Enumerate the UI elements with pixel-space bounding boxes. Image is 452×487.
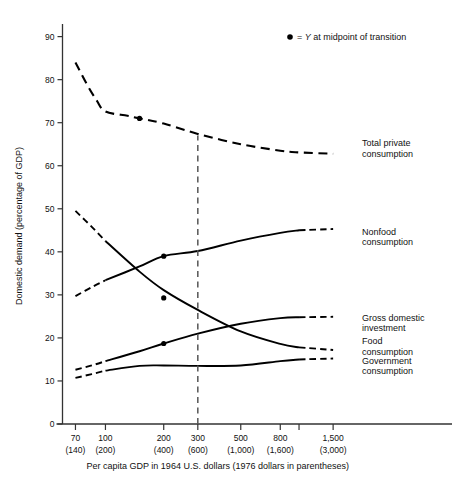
- y-tick-label-20: 20: [45, 333, 55, 343]
- y-tick-label-80: 80: [45, 75, 55, 85]
- series-dash-end-nonfood-consumption: [299, 229, 333, 230]
- curve-label-government-consumption: Government: [362, 356, 412, 366]
- series-dash-end-government-consumption: [299, 359, 333, 360]
- series-line-food-consumption: [105, 241, 299, 347]
- series-line-government-consumption: [105, 359, 299, 370]
- domestic-demand-chart: 010203040506070809070(140)100(200)200(40…: [0, 0, 452, 487]
- legend-text-before: =: [297, 32, 305, 42]
- x-tick-label-1,500: 1,500: [322, 433, 344, 443]
- y-tick-label-40: 40: [45, 247, 55, 257]
- midpoint-marker-nonfood-consumption: [161, 254, 166, 259]
- curve-label-total-private-consumption: Total private: [362, 138, 411, 148]
- x-tick-paren-200: (400): [154, 445, 174, 455]
- x-tick-paren-500: (1,000): [227, 445, 254, 455]
- legend-group: = Y at midpoint of transition: [287, 32, 406, 42]
- x-axis-title: Per capita GDP in 1964 U.S. dollars (197…: [87, 461, 349, 471]
- series-dash-end-food-consumption: [299, 347, 333, 350]
- curve-label-government-consumption: consumption: [362, 366, 413, 376]
- y-tick-label-30: 30: [45, 290, 55, 300]
- midpoint-marker-food-consumption: [161, 295, 166, 300]
- y-tick-label-70: 70: [45, 118, 55, 128]
- series-dash-start-nonfood-consumption: [75, 280, 105, 296]
- series-dash-start-government-consumption: [75, 371, 105, 378]
- curve-label-nonfood-consumption: consumption: [362, 237, 413, 247]
- x-tick-paren-300: (600): [188, 445, 208, 455]
- curve-label-gross-domestic-investment: Gross domestic: [362, 313, 425, 323]
- x-tick-paren-100: (200): [96, 445, 116, 455]
- axis-titles-group: Domestic demand (percentage of GDP)Per c…: [14, 147, 349, 471]
- x-tick-paren-70: (140): [66, 445, 86, 455]
- y-tick-label-10: 10: [45, 376, 55, 386]
- midpoint-marker-total-private-consumption: [137, 116, 142, 121]
- series-group: [75, 62, 333, 378]
- x-tick-label-70: 70: [71, 433, 81, 443]
- y-tick-label-90: 90: [45, 32, 55, 42]
- series-line-nonfood-consumption: [105, 230, 299, 280]
- x-tick-label-100: 100: [98, 433, 112, 443]
- legend-text-after: at midpoint of transition: [311, 32, 407, 42]
- x-tick-label-200: 200: [157, 433, 171, 443]
- legend-dot-icon: [287, 34, 293, 40]
- midpoint-marker-gross-domestic-investment: [161, 341, 166, 346]
- x-tick-paren-800: (1,600): [267, 445, 294, 455]
- y-axis-title: Domestic demand (percentage of GDP): [14, 147, 24, 305]
- y-tick-label-60: 60: [45, 161, 55, 171]
- legend-label: = Y at midpoint of transition: [297, 32, 406, 42]
- series-line-total-private-consumption: [75, 62, 333, 153]
- y-tick-label-0: 0: [50, 419, 55, 429]
- series-line-gross-domestic-investment: [105, 317, 299, 361]
- y-tick-label-50: 50: [45, 204, 55, 214]
- curve-label-total-private-consumption: consumption: [362, 149, 413, 159]
- x-tick-label-300: 300: [191, 433, 205, 443]
- curve-label-nonfood-consumption: Nonfood: [362, 227, 396, 237]
- marker-group: [137, 116, 166, 346]
- series-dash-start-gross-domestic-investment: [75, 361, 105, 370]
- x-tick-label-500: 500: [234, 433, 248, 443]
- figure-container: 010203040506070809070(140)100(200)200(40…: [0, 0, 452, 487]
- series-dash-start-food-consumption: [75, 211, 105, 241]
- curve-label-food-consumption: Food: [362, 336, 383, 346]
- curve-labels-group: Total privateconsumptionNonfoodconsumpti…: [362, 138, 425, 376]
- curve-label-gross-domestic-investment: investment: [362, 323, 406, 333]
- x-tick-paren-1,500: (3,000): [320, 445, 347, 455]
- x-tick-label-800: 800: [273, 433, 287, 443]
